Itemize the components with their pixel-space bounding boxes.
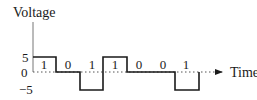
y-tick-neg5: −5 [19,82,33,97]
bit-label-3: 1 [89,57,96,72]
y-tick-5: 5 [22,50,29,65]
bit-label-2: 0 [65,57,72,72]
bit-label-1: 1 [41,57,48,72]
bit-label-4: 1 [112,57,119,72]
x-axis-label: Time [230,65,257,80]
bipolar-encoding-diagram: Voltage 5 0 −5 Time 1 0 1 1 0 0 1 [0,0,257,100]
y-axis-label: Voltage [13,5,56,20]
bit-label-5: 0 [136,57,143,72]
bit-label-6: 0 [160,57,167,72]
y-tick-0: 0 [21,65,28,80]
bit-label-7: 1 [183,57,190,72]
